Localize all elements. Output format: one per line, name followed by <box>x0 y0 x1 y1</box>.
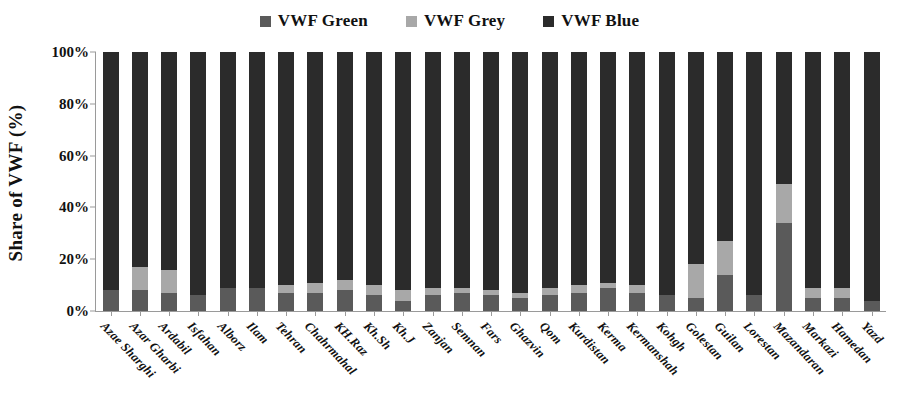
x-axis-tick-mark <box>198 311 199 316</box>
x-axis-tick-mark <box>433 311 434 316</box>
x-axis-label-slot: Yazd <box>856 319 885 405</box>
stacked-bar <box>512 52 528 311</box>
bar-group <box>418 52 447 311</box>
y-axis-tick-label: 40% <box>59 199 89 216</box>
bar-segment <box>659 52 675 295</box>
x-axis-label-slot: Fars <box>475 319 504 405</box>
x-axis-label-slot: Isfahan <box>183 319 212 405</box>
x-axis-label-slot: Golestan <box>680 319 709 405</box>
x-axis-label-slot: Semnan <box>446 319 475 405</box>
x-axis-tick-mark <box>257 311 258 316</box>
bar-group <box>301 52 330 311</box>
stacked-bar-chart: VWF GreenVWF GreyVWF Blue Share of VWF (… <box>0 0 899 405</box>
x-axis-label-slot: Zanjan <box>417 319 446 405</box>
bar-group <box>711 52 740 311</box>
bar-segment <box>249 52 265 288</box>
bar-group <box>798 52 827 311</box>
x-axis-tick-mark <box>784 311 785 316</box>
stacked-bar <box>629 52 645 311</box>
legend-label: VWF Blue <box>561 11 639 31</box>
bar-group <box>447 52 476 311</box>
legend-entry: VWF Blue <box>543 11 639 31</box>
stacked-bar <box>483 52 499 311</box>
stacked-bar <box>454 52 470 311</box>
bar-segment <box>629 52 645 285</box>
bar-group <box>535 52 564 311</box>
x-axis-tick-mark <box>111 311 112 316</box>
bar-segment <box>366 52 382 285</box>
x-axis-tick-mark <box>842 311 843 316</box>
x-axis-label-slot: Alborz <box>212 319 241 405</box>
stacked-bar <box>366 52 382 311</box>
legend-entry: VWF Green <box>260 11 368 31</box>
bar-segment <box>805 298 821 311</box>
bar-segment <box>542 288 558 296</box>
stacked-bar <box>132 52 148 311</box>
stacked-bar <box>542 52 558 311</box>
chart-legend: VWF GreenVWF GreyVWF Blue <box>0 6 899 36</box>
bar-segment <box>161 270 177 293</box>
bar-group <box>359 52 388 311</box>
bar-group <box>828 52 857 311</box>
bar-segment <box>542 295 558 311</box>
x-axis-tick-mark <box>403 311 404 316</box>
bar-segment <box>629 293 645 311</box>
bar-segment <box>366 285 382 295</box>
x-axis-label-slot: Kh.J <box>388 319 417 405</box>
x-axis-label-slot: Hamedan <box>827 319 856 405</box>
x-axis-tick-label: Fars <box>477 319 505 347</box>
bar-group <box>96 52 125 311</box>
bar-segment <box>425 52 441 288</box>
bar-segment <box>278 293 294 311</box>
x-axis-tick-mark <box>725 311 726 316</box>
bar-group <box>623 52 652 311</box>
bar-segment <box>688 264 704 298</box>
bar-segment <box>542 52 558 288</box>
bar-group <box>857 52 886 311</box>
bar-segment <box>483 52 499 290</box>
bar-segment <box>337 52 353 280</box>
legend-label: VWF Green <box>278 11 368 31</box>
stacked-bar <box>190 52 206 311</box>
bar-segment <box>483 295 499 311</box>
bar-segment <box>220 288 236 311</box>
x-axis-tick-mark <box>315 311 316 316</box>
bar-segment <box>834 52 850 288</box>
y-axis-tick-label: 80% <box>59 95 89 112</box>
stacked-bar <box>864 52 880 311</box>
stacked-bar <box>425 52 441 311</box>
bar-segment <box>717 275 733 311</box>
y-axis-title: Share of VWF (%) <box>2 50 30 315</box>
bar-segment <box>425 295 441 311</box>
bar-segment <box>278 285 294 293</box>
x-axis-tick-mark <box>813 311 814 316</box>
x-axis-label-slot: KH.Raz <box>329 319 358 405</box>
bar-segment <box>571 52 587 285</box>
x-axis-tick-label: Yazd <box>858 319 886 347</box>
stacked-bar <box>776 52 792 311</box>
bar-group <box>769 52 798 311</box>
stacked-bar <box>307 52 323 311</box>
bar-group <box>125 52 154 311</box>
bar-segment <box>425 288 441 296</box>
bar-segment <box>454 293 470 311</box>
bar-segment <box>337 280 353 290</box>
x-axis-label-slot: Ghazvin <box>505 319 534 405</box>
y-axis-tick-label: 0% <box>67 303 90 320</box>
bar-segment <box>834 288 850 298</box>
bar-group <box>389 52 418 311</box>
stacked-bar <box>278 52 294 311</box>
bar-group <box>213 52 242 311</box>
bar-segment <box>103 52 119 290</box>
bar-segment <box>571 293 587 311</box>
bar-segment <box>776 52 792 184</box>
bar-group <box>330 52 359 311</box>
bar-segment <box>805 288 821 298</box>
x-axis-label-slot: Mazandaran <box>768 319 797 405</box>
bar-segment <box>864 52 880 301</box>
bar-segment <box>220 52 236 288</box>
bar-segment <box>307 293 323 311</box>
stacked-bar <box>805 52 821 311</box>
x-axis-tick-mark <box>140 311 141 316</box>
bar-segment <box>746 295 762 311</box>
